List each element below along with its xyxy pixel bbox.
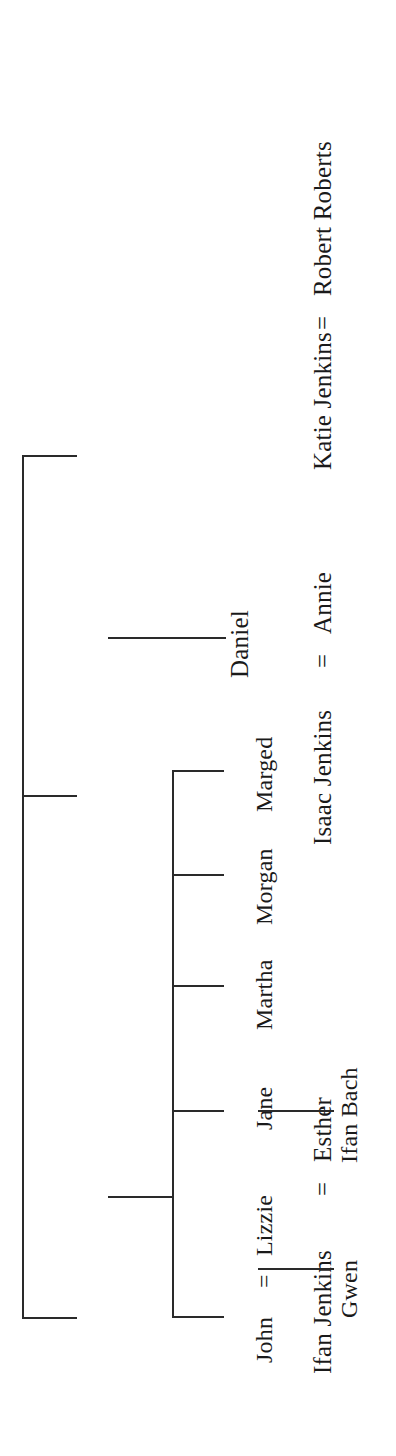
line-john-lizzie-to-gwen xyxy=(258,1268,334,1270)
person-isaac-jenkins: Isaac Jenkins xyxy=(310,710,335,845)
gen1-trunk-line xyxy=(22,455,24,1319)
marriage-equals-katie-robert: = xyxy=(310,316,335,330)
person-ifan-bach: Ifan Bach xyxy=(337,1067,361,1163)
gen2-branch-marged xyxy=(172,770,224,772)
person-john: John xyxy=(252,1317,276,1363)
person-marged: Marged xyxy=(252,737,276,812)
family-tree-diagram: Katie Jenkins = Robert Roberts Isaac Jen… xyxy=(0,0,396,1456)
person-gwen: Gwen xyxy=(337,1260,361,1318)
person-annie: Annie xyxy=(310,572,335,634)
gen2-branch-morgan xyxy=(172,874,224,876)
line-isaac-annie-to-daniel xyxy=(108,637,226,639)
person-jane: Jane xyxy=(252,1087,276,1130)
person-katie-jenkins: Katie Jenkins xyxy=(310,332,335,470)
gen1-branch-isaac xyxy=(22,795,77,797)
line-jane-to-ifan-bach xyxy=(258,1110,334,1112)
person-esther: Esther xyxy=(310,1097,335,1162)
person-lizzie: Lizzie xyxy=(252,1195,276,1256)
marriage-equals-isaac-annie: = xyxy=(310,654,335,668)
gen1-branch-ifan xyxy=(22,1317,77,1319)
gen2-spine-line xyxy=(172,770,174,1318)
marriage-equals-ifan-esther: = xyxy=(310,1182,335,1196)
gen2-branch-john xyxy=(172,1316,224,1318)
marriage-equals-john-lizzie: = xyxy=(252,1274,276,1288)
person-daniel: Daniel xyxy=(227,610,252,678)
person-robert-roberts: Robert Roberts xyxy=(310,141,335,296)
gen1-branch-katie xyxy=(22,455,77,457)
person-morgan: Morgan xyxy=(252,848,276,925)
line-ifan-esther-to-children xyxy=(108,1196,174,1198)
gen2-branch-jane xyxy=(172,1110,224,1112)
gen2-branch-martha xyxy=(172,985,224,987)
person-martha: Martha xyxy=(252,959,276,1030)
